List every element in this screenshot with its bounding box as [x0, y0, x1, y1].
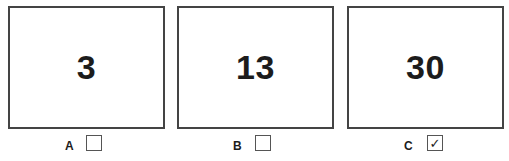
option-c: 30 C ✓ — [347, 6, 504, 161]
option-b-checkbox[interactable] — [255, 135, 271, 151]
option-c-card: 30 — [347, 6, 504, 129]
option-a-checkbox[interactable] — [86, 135, 102, 151]
option-c-label: C — [404, 139, 413, 153]
option-c-value: 30 — [406, 50, 445, 84]
option-a-value: 3 — [77, 50, 96, 84]
option-b-answer-row: B — [177, 135, 334, 153]
option-a-label: A — [65, 139, 74, 153]
option-a: 3 A — [8, 6, 165, 161]
option-c-answer-row: C ✓ — [347, 135, 504, 153]
option-b-card: 13 — [177, 6, 334, 129]
option-a-card: 3 — [8, 6, 165, 129]
option-b: 13 B — [177, 6, 334, 161]
option-c-checkbox[interactable]: ✓ — [427, 135, 443, 151]
option-b-value: 13 — [236, 50, 275, 84]
option-a-answer-row: A — [8, 135, 165, 153]
option-b-label: B — [233, 139, 242, 153]
checkmark-icon: ✓ — [430, 137, 441, 150]
